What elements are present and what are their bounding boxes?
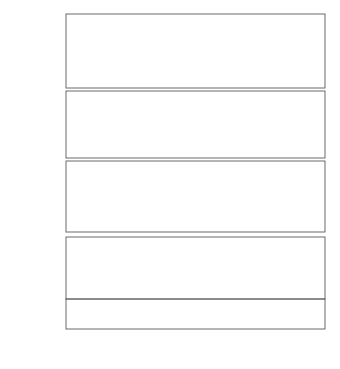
figure-background — [0, 0, 340, 369]
meteogram-figure — [0, 0, 340, 369]
